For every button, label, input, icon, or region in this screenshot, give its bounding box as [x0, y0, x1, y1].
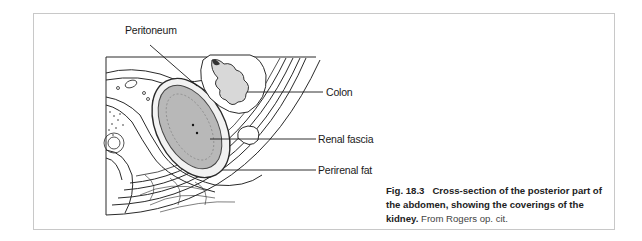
figure-number: Fig. 18.3 — [386, 185, 424, 196]
vertebra — [104, 133, 124, 153]
label-perirenal-fat: Perirenal fat — [318, 164, 372, 176]
label-colon: Colon — [326, 86, 352, 98]
figure-source: From Rogers op. cit. — [421, 213, 508, 224]
stippled-region — [108, 111, 124, 136]
label-peritoneum: Peritoneum — [125, 24, 177, 36]
figure-caption: Fig. 18.3 Cross-section of the posterior… — [386, 184, 616, 226]
label-renal-fascia: Renal fascia — [318, 133, 373, 145]
